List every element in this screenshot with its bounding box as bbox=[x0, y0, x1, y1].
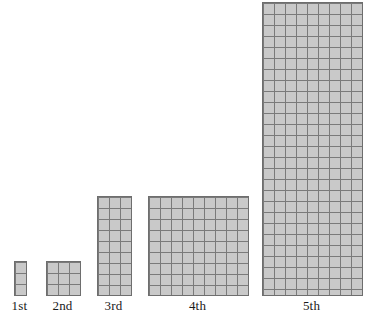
figure-label-2nd: 2nd bbox=[43, 298, 82, 314]
grid-figure-3rd bbox=[97, 196, 132, 296]
grid-figure-2nd bbox=[46, 261, 81, 296]
figure-label-1st: 1st bbox=[0, 298, 39, 314]
grid-figure-5th bbox=[262, 2, 363, 296]
figure-label-3rd: 3rd bbox=[94, 298, 133, 314]
figure-canvas: 1st 2nd 3rd 4th 5th bbox=[0, 0, 371, 323]
figure-label-4th: 4th bbox=[178, 298, 217, 314]
grid-figure-4th bbox=[148, 196, 249, 296]
grid-figure-1st bbox=[14, 261, 27, 296]
figure-label-5th: 5th bbox=[292, 298, 331, 314]
